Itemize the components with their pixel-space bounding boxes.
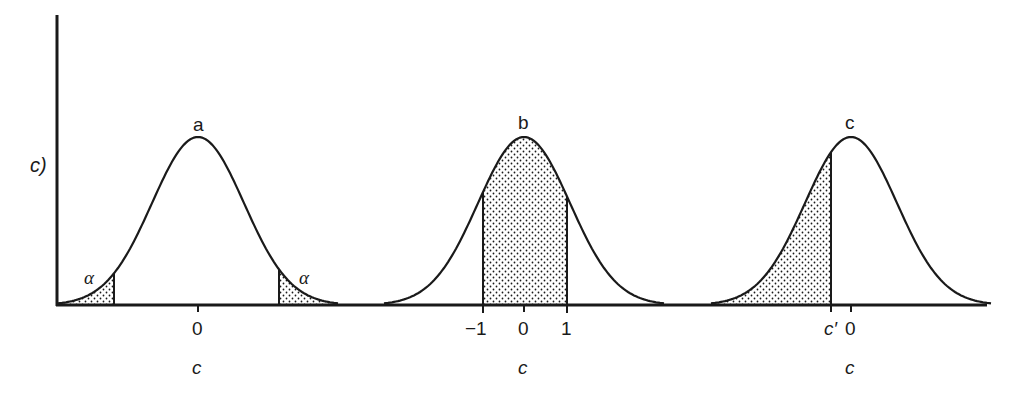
shaded-region: [384, 137, 664, 305]
shaded-region: [58, 137, 338, 305]
normal-distributions-diagram: [0, 0, 1016, 399]
panel-c-tick-cprime: c′: [824, 319, 837, 338]
panel-b-axis-label: c: [518, 358, 528, 377]
alpha-left-label: α: [84, 268, 94, 287]
shaded-region: [58, 137, 338, 305]
panel-a-tick-0: 0: [192, 319, 203, 338]
panel-c-tick-0: 0: [845, 319, 856, 338]
panel-c-axis-label: c: [845, 358, 855, 377]
panel-b-title: b: [518, 113, 529, 132]
panel-c-title: c: [845, 113, 855, 132]
panel-a-title: a: [193, 115, 204, 134]
shaded-region: [711, 137, 991, 305]
bell-curve: [711, 137, 991, 303]
panel-b-tick-1: 1: [561, 319, 572, 338]
panel-b-tick-minus1: −1: [465, 319, 487, 338]
curve-a: [58, 137, 338, 305]
curve-b: [384, 137, 664, 305]
bell-curve: [58, 137, 338, 303]
curve-c: [711, 137, 991, 305]
panel-a-axis-label: c: [192, 358, 202, 377]
panel-b-tick-0: 0: [518, 319, 529, 338]
alpha-right-label: α: [299, 268, 309, 287]
y-axis-label: c): [30, 155, 47, 175]
